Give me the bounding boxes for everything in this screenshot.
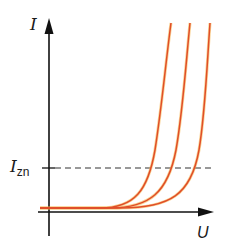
y-axis-arrow-icon xyxy=(45,18,54,34)
curve-3 xyxy=(40,23,210,208)
izn-label: Izn xyxy=(10,156,29,176)
x-axis-arrow-icon xyxy=(198,208,214,217)
y-axis-label: I xyxy=(30,14,37,34)
izn-label-main: I xyxy=(10,156,17,176)
zener-characteristic-chart xyxy=(0,0,236,243)
izn-label-subscript: zn xyxy=(17,165,30,179)
curve-1 xyxy=(40,23,171,208)
curves-glow xyxy=(40,23,210,208)
x-axis-label: U xyxy=(197,224,209,242)
